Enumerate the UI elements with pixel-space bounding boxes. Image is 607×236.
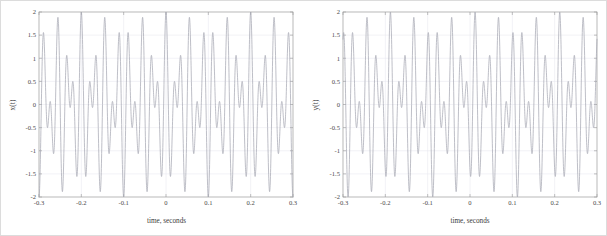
svg-text:-0.5: -0.5 bbox=[330, 124, 341, 131]
svg-text:0.5: 0.5 bbox=[332, 78, 341, 85]
svg-text:-1: -1 bbox=[31, 147, 37, 154]
svg-text:-1: -1 bbox=[335, 147, 341, 154]
plot-canvas-right: -0.3-0.2-0.100.10.20.3-2-1.5-1-0.500.511… bbox=[304, 1, 607, 236]
svg-text:-0.1: -0.1 bbox=[118, 199, 128, 206]
svg-text:0.2: 0.2 bbox=[247, 199, 255, 206]
svg-text:0.1: 0.1 bbox=[508, 199, 516, 206]
svg-text:-1.5: -1.5 bbox=[26, 170, 37, 177]
svg-text:-2: -2 bbox=[31, 193, 37, 200]
svg-text:2: 2 bbox=[337, 8, 340, 15]
svg-text:0.3: 0.3 bbox=[593, 199, 602, 206]
svg-text:-1.5: -1.5 bbox=[330, 170, 341, 177]
svg-text:-0.1: -0.1 bbox=[422, 199, 432, 206]
svg-text:1.5: 1.5 bbox=[332, 31, 341, 38]
svg-text:-2: -2 bbox=[335, 193, 341, 200]
svg-text:0.5: 0.5 bbox=[28, 78, 37, 85]
svg-text:0: 0 bbox=[164, 199, 168, 206]
svg-text:0: 0 bbox=[337, 101, 341, 108]
y-axis-label-left: x(t) bbox=[9, 85, 17, 125]
svg-text:0.2: 0.2 bbox=[551, 199, 559, 206]
svg-text:2: 2 bbox=[33, 8, 36, 15]
figure-page: -0.3-0.2-0.100.10.20.3-2-1.5-1-0.500.511… bbox=[0, 0, 607, 236]
svg-text:1: 1 bbox=[33, 55, 36, 62]
y-axis-label-right: y(t) bbox=[312, 85, 320, 125]
svg-text:-0.2: -0.2 bbox=[76, 199, 86, 206]
svg-text:0.3: 0.3 bbox=[289, 199, 298, 206]
svg-text:-0.2: -0.2 bbox=[380, 199, 390, 206]
x-axis-label-right: time, seconds bbox=[342, 217, 598, 225]
svg-text:1: 1 bbox=[337, 55, 340, 62]
plot-panel-right: -0.3-0.2-0.100.10.20.3-2-1.5-1-0.500.511… bbox=[304, 1, 607, 236]
svg-text:1.5: 1.5 bbox=[28, 31, 37, 38]
svg-text:0: 0 bbox=[468, 199, 472, 206]
x-axis-label-left: time, seconds bbox=[39, 217, 294, 225]
svg-text:0: 0 bbox=[33, 101, 37, 108]
svg-text:-0.5: -0.5 bbox=[26, 124, 37, 131]
plot-panel-left: -0.3-0.2-0.100.10.20.3-2-1.5-1-0.500.511… bbox=[1, 1, 304, 236]
plot-canvas-left: -0.3-0.2-0.100.10.20.3-2-1.5-1-0.500.511… bbox=[1, 1, 304, 236]
svg-text:0.1: 0.1 bbox=[204, 199, 212, 206]
